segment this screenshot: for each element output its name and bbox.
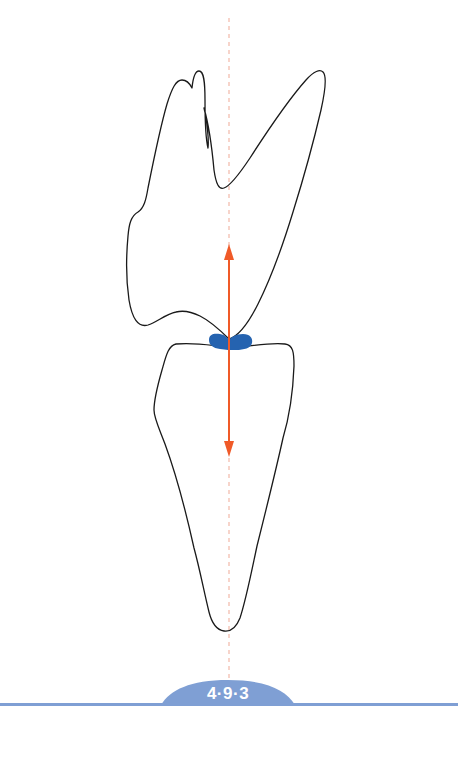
dental-occlusion-diagram: 4·9·3 (0, 0, 468, 766)
arrow-up-icon (224, 244, 234, 260)
upper-tooth-outline (127, 71, 326, 339)
arrow-down-icon (224, 441, 234, 457)
contact-point-mark (209, 334, 252, 350)
diagram-canvas (0, 0, 468, 766)
figure-number-label: 4·9·3 (183, 683, 273, 705)
lower-tooth-outline (154, 343, 294, 631)
